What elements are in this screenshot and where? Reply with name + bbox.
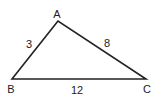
side-label-bc: 12 [71,84,83,96]
vertex-label-a: A [53,8,61,20]
side-label-ac: 8 [104,37,110,49]
vertex-label-b: B [7,83,14,95]
side-label-ab: 3 [26,38,32,50]
vertex-label-c: C [143,83,151,95]
triangle-diagram: A B C 3 8 12 [0,0,160,104]
triangle-abc [12,21,146,79]
